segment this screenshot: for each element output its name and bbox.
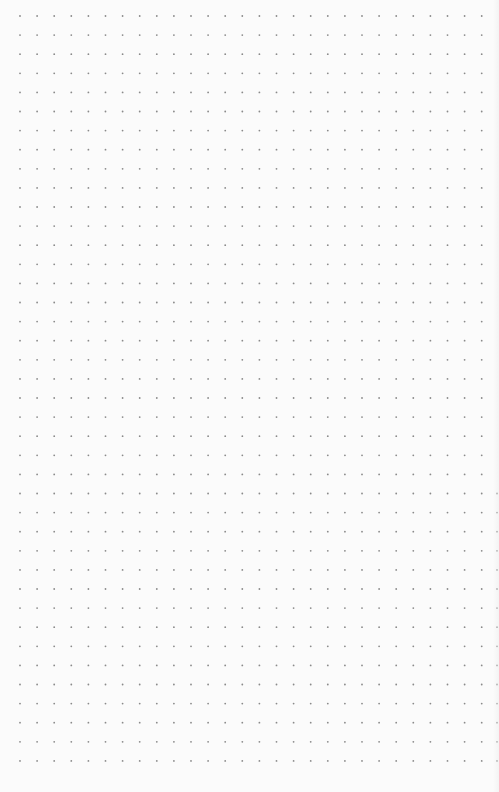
grid-dot (412, 416, 414, 418)
grid-dot (19, 302, 21, 304)
grid-dot (259, 569, 261, 571)
grid-dot (156, 378, 158, 380)
grid-dot (173, 645, 175, 647)
grid-dot (464, 359, 466, 361)
grid-dot (395, 263, 397, 265)
grid-dot (139, 741, 141, 743)
grid-dot (344, 435, 346, 437)
grid-dot (19, 607, 21, 609)
grid-dot (105, 340, 107, 342)
grid-dot (378, 397, 380, 399)
grid-dot (19, 187, 21, 189)
grid-dot (310, 225, 312, 227)
grid-dot (412, 741, 414, 743)
grid-dot (481, 512, 483, 514)
grid-dot (207, 416, 209, 418)
grid-dot (173, 111, 175, 113)
grid-dot (327, 454, 329, 456)
grid-dot (447, 645, 449, 647)
grid-dot (190, 92, 192, 94)
grid-dot (395, 588, 397, 590)
grid-dot (481, 225, 483, 227)
grid-dot (173, 321, 175, 323)
grid-dot (241, 760, 243, 762)
grid-dot (207, 607, 209, 609)
grid-dot (447, 435, 449, 437)
grid-dot (139, 206, 141, 208)
grid-dot (207, 531, 209, 533)
grid-dot (122, 454, 124, 456)
grid-dot (105, 321, 107, 323)
grid-dot (327, 569, 329, 571)
grid-dot (259, 340, 261, 342)
grid-dot (156, 435, 158, 437)
grid-dot (36, 397, 38, 399)
grid-dot (241, 244, 243, 246)
grid-dot (36, 206, 38, 208)
grid-dot (310, 111, 312, 113)
grid-dot (344, 378, 346, 380)
grid-dot (70, 130, 72, 132)
grid-dot (361, 15, 363, 17)
grid-dot (156, 72, 158, 74)
grid-dot (139, 187, 141, 189)
grid-dot (105, 111, 107, 113)
grid-dot (293, 435, 295, 437)
grid-dot (310, 359, 312, 361)
grid-dot (88, 111, 90, 113)
grid-dot (481, 454, 483, 456)
grid-dot (310, 493, 312, 495)
grid-dot (447, 340, 449, 342)
grid-dot (224, 454, 226, 456)
grid-dot (310, 168, 312, 170)
grid-dot (173, 244, 175, 246)
grid-dot (156, 741, 158, 743)
grid-dot (53, 569, 55, 571)
grid-dot (19, 130, 21, 132)
grid-dot (259, 263, 261, 265)
grid-dot (276, 92, 278, 94)
grid-dot (156, 34, 158, 36)
grid-dot (464, 435, 466, 437)
grid-dot (19, 703, 21, 705)
grid-dot (36, 53, 38, 55)
grid-dot (105, 206, 107, 208)
grid-dot (310, 92, 312, 94)
grid-dot (276, 111, 278, 113)
grid-dot (105, 550, 107, 552)
grid-dot (259, 283, 261, 285)
grid-dot (327, 187, 329, 189)
grid-dot (361, 244, 363, 246)
grid-dot (293, 225, 295, 227)
grid-dot (259, 321, 261, 323)
grid-dot (156, 283, 158, 285)
grid-dot (276, 130, 278, 132)
grid-dot (241, 206, 243, 208)
grid-dot (481, 244, 483, 246)
grid-dot (70, 569, 72, 571)
grid-dot (139, 263, 141, 265)
grid-dot (395, 378, 397, 380)
grid-dot (276, 302, 278, 304)
grid-dot (173, 416, 175, 418)
grid-dot (293, 15, 295, 17)
grid-dot (344, 263, 346, 265)
grid-dot (344, 206, 346, 208)
grid-dot (412, 225, 414, 227)
grid-dot (241, 474, 243, 476)
grid-dot (447, 684, 449, 686)
grid-dot (105, 512, 107, 514)
grid-dot (173, 225, 175, 227)
grid-dot (224, 378, 226, 380)
grid-dot (173, 378, 175, 380)
grid-dot (464, 15, 466, 17)
grid-dot (327, 760, 329, 762)
grid-dot (327, 206, 329, 208)
grid-dot (447, 588, 449, 590)
grid-dot (464, 397, 466, 399)
grid-dot (327, 741, 329, 743)
grid-dot (70, 111, 72, 113)
grid-dot (293, 72, 295, 74)
grid-dot (447, 607, 449, 609)
grid-dot (464, 607, 466, 609)
